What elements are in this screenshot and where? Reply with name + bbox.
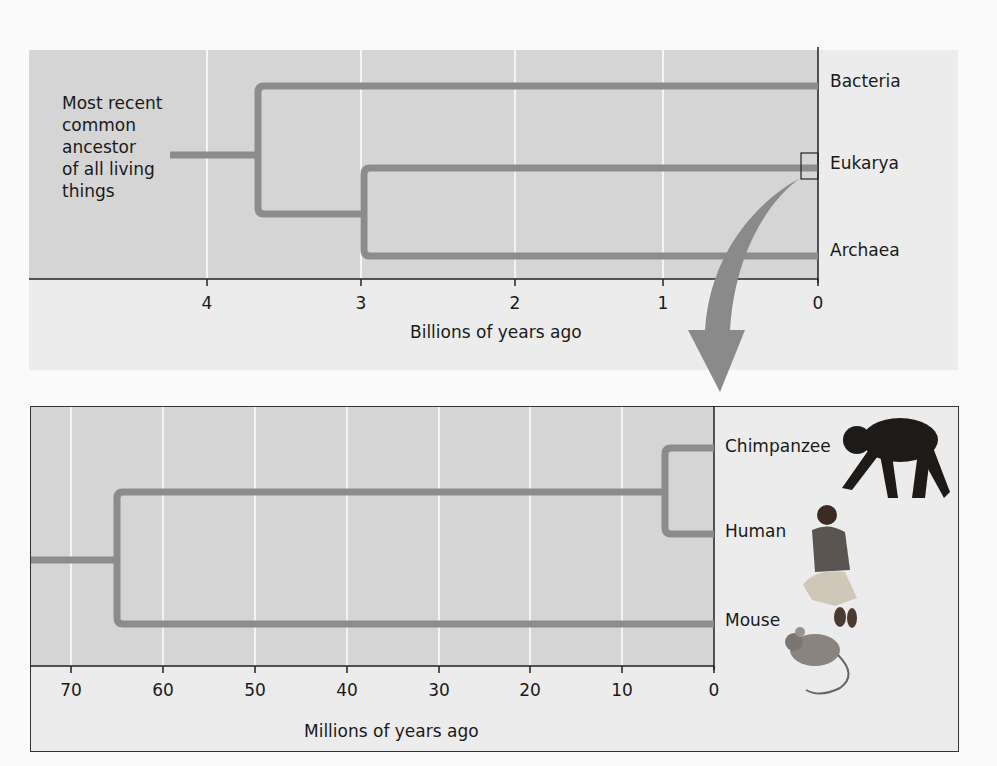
taxon-chimpanzee: Chimpanzee (725, 438, 831, 455)
bottom-tick-70: 70 (60, 682, 82, 699)
mouse-image (785, 627, 849, 694)
bottom-tick-20: 20 (519, 682, 541, 699)
bottom-tree-graphics (0, 0, 997, 766)
bottom-axis-label: Millions of years ago (304, 723, 479, 740)
bottom-tick-0: 0 (709, 682, 720, 699)
bottom-tree-branches (31, 448, 714, 624)
human-image (803, 505, 857, 628)
chimpanzee-image (842, 418, 950, 498)
bottom-tick-60: 60 (152, 682, 174, 699)
bottom-tick-30: 30 (428, 682, 450, 699)
taxon-mouse: Mouse (725, 612, 780, 629)
taxon-human: Human (725, 523, 786, 540)
bottom-tick-40: 40 (336, 682, 358, 699)
bottom-tick-50: 50 (244, 682, 266, 699)
bottom-tick-10: 10 (611, 682, 633, 699)
